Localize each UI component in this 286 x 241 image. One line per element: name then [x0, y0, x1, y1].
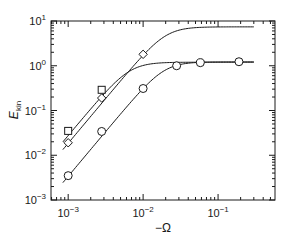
- circle-marker: [64, 172, 72, 180]
- x-tick-label: 10−2: [132, 205, 154, 219]
- x-tick-label: 10−3: [57, 205, 79, 219]
- circle-marker: [98, 127, 106, 135]
- y-axis-ticks: [51, 21, 275, 200]
- y-axis-tick-labels: 10−310−210−1100101: [25, 13, 47, 206]
- y-tick-label: 10−1: [25, 103, 47, 117]
- y-tick-label: 10−3: [25, 192, 47, 206]
- x-axis-tick-labels: 10−310−210−1: [57, 205, 229, 219]
- y-tick-label: 10−2: [25, 147, 47, 161]
- diamond-marker: [139, 50, 147, 58]
- x-axis-label: −Ω: [155, 221, 171, 235]
- y-tick-label: 100: [29, 58, 46, 72]
- fit-curves: [63, 27, 254, 183]
- circle-marker: [235, 58, 243, 66]
- fit-curve-diamonds: [63, 27, 254, 150]
- chart: 10−310−210−1 10−310−210−1100101 −Ω Ekin: [0, 0, 286, 241]
- square-marker: [65, 127, 72, 134]
- x-axis-ticks: [52, 21, 271, 200]
- plot-frame: [51, 21, 275, 200]
- circle-marker: [173, 62, 181, 70]
- square-marker: [98, 86, 105, 93]
- fit-curve-circles: [63, 62, 254, 183]
- circle-marker: [139, 85, 147, 93]
- data-markers: [64, 50, 243, 180]
- y-tick-label: 101: [29, 13, 46, 27]
- circle-marker: [196, 59, 204, 67]
- x-tick-label: 10−1: [207, 205, 229, 219]
- diamond-marker: [97, 94, 105, 102]
- y-axis-label: Ekin: [7, 101, 23, 119]
